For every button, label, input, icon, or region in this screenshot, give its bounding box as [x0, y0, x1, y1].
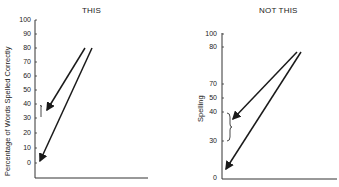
chart-this: THIS Percentage of Words Spelled Correct… — [0, 0, 170, 187]
plot-area — [170, 0, 339, 187]
plot-area — [0, 0, 170, 187]
arrow-lower — [226, 52, 301, 169]
brace — [227, 113, 232, 141]
arrow-upper — [47, 48, 85, 110]
arrow-lower — [40, 48, 92, 161]
chart-not-this: NOT THIS Spelling 100 80 70 50 40 30 0 — [170, 0, 339, 187]
